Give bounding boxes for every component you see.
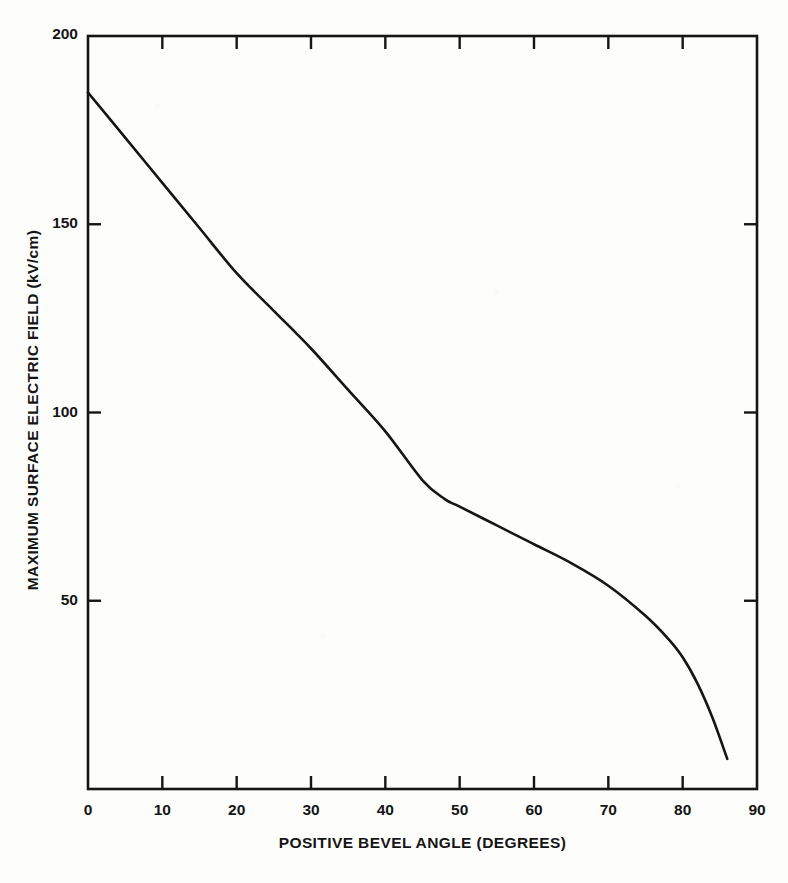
x-tick-label: 0 <box>58 801 118 819</box>
x-tick-label: 30 <box>281 801 341 819</box>
plot-frame <box>88 36 757 789</box>
figure-canvas: MAXIMUM SURFACE ELECTRIC FIELD (kV/cm) P… <box>0 0 788 883</box>
y-tick-label-max: 200 <box>6 25 78 43</box>
x-tick-label: 20 <box>207 801 267 819</box>
y-axis-ticks-right <box>744 224 757 601</box>
x-axis-ticks-bottom <box>162 776 682 789</box>
x-tick-label: 10 <box>132 801 192 819</box>
y-tick-label: 100 <box>6 403 78 421</box>
y-tick-label: 50 <box>6 591 78 609</box>
x-tick-label: 50 <box>430 801 490 819</box>
x-tick-label: 40 <box>355 801 415 819</box>
x-tick-label: 60 <box>504 801 564 819</box>
y-axis-ticks-left <box>88 224 101 601</box>
x-tick-label: 80 <box>653 801 713 819</box>
y-tick-label: 150 <box>6 214 78 232</box>
x-tick-label: 90 <box>727 801 787 819</box>
plot-area <box>0 0 788 883</box>
data-curve-maximum-surface-electric-field <box>88 92 727 758</box>
x-axis-ticks-top <box>162 36 682 49</box>
x-tick-label: 70 <box>578 801 638 819</box>
